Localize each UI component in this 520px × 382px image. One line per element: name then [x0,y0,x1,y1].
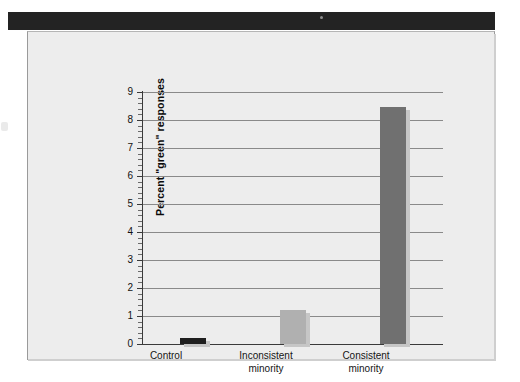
y-tick-minor [138,182,142,183]
bar[interactable] [280,310,306,344]
y-tick-minor [138,226,142,227]
y-tick-minor [138,187,142,188]
y-tick-minor [138,109,142,110]
y-tick-minor [138,299,142,300]
y-tick-minor [138,305,142,306]
y-tick-major [137,288,142,289]
y-tick-minor [138,333,142,334]
y-tick-minor [138,98,142,99]
y-tick-major [137,232,142,233]
y-tick-minor [138,327,142,328]
y-tick-minor [138,221,142,222]
y-tick-minor [138,215,142,216]
y-tick-minor [138,277,142,278]
y-tick-minor [138,137,142,138]
y-tick-minor [138,198,142,199]
y-tick-label: 2 [127,283,133,293]
y-tick-label: 3 [127,255,133,265]
chart-figure-panel: Percent "green" responses 0123456789 Con… [27,31,495,360]
y-axis-ticks [136,92,142,344]
bar[interactable] [180,338,206,344]
page-header-band [8,12,495,30]
x-label-line: minority [306,363,426,376]
y-axis-tick-labels: 0123456789 [116,92,133,344]
x-label-line: Consistent [306,350,426,363]
y-tick-minor [138,238,142,239]
y-tick-major [137,344,142,345]
y-tick-minor [138,165,142,166]
y-tick-major [137,92,142,93]
y-tick-label: 8 [127,115,133,125]
y-tick-minor [138,131,142,132]
y-tick-major [137,316,142,317]
y-tick-minor [138,322,142,323]
y-tick-minor [138,103,142,104]
y-tick-minor [138,338,142,339]
y-tick-label: 0 [127,339,133,349]
y-tick-minor [138,154,142,155]
y-tick-label: 6 [127,171,133,181]
x-axis-category-label: Consistentminority [306,350,426,375]
y-tick-minor [138,142,142,143]
y-tick-minor [138,282,142,283]
y-tick-major [137,120,142,121]
gridline [143,92,443,93]
bar[interactable] [380,107,406,344]
scan-artifact [1,122,8,131]
y-tick-minor [138,114,142,115]
y-tick-minor [138,249,142,250]
y-tick-minor [138,126,142,127]
y-tick-label: 4 [127,227,133,237]
y-tick-label: 7 [127,143,133,153]
y-tick-minor [138,266,142,267]
plot-area [143,92,443,344]
y-tick-label: 9 [127,87,133,97]
y-tick-minor [138,159,142,160]
y-tick-minor [138,310,142,311]
y-tick-minor [138,170,142,171]
y-tick-major [137,148,142,149]
y-tick-minor [138,294,142,295]
y-tick-minor [138,193,142,194]
y-tick-minor [138,271,142,272]
y-tick-major [137,260,142,261]
y-tick-major [137,204,142,205]
y-tick-minor [138,210,142,211]
header-band-speck [320,16,323,19]
y-tick-minor [138,254,142,255]
y-tick-label: 5 [127,199,133,209]
y-tick-minor [138,243,142,244]
y-tick-label: 1 [127,311,133,321]
y-tick-major [137,176,142,177]
